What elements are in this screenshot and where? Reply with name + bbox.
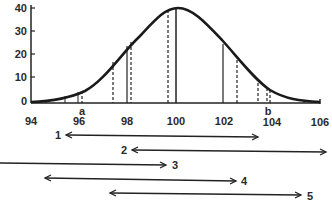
y-tick-label: 0 — [21, 95, 27, 107]
y-tick-label: 30 — [15, 25, 27, 37]
interval-label-1: 1 — [55, 129, 61, 141]
y-axis-ticks: 40 30 20 10 0 — [15, 2, 35, 107]
annotation-b: b — [265, 105, 272, 117]
y-tick-label: 20 — [15, 48, 27, 60]
x-tick-label: 102 — [215, 115, 233, 127]
x-tick-label: 100 — [167, 115, 185, 127]
interval-3 — [0, 162, 166, 168]
x-tick-label: 98 — [121, 115, 133, 127]
x-tick-label: 94 — [25, 115, 38, 127]
interval-label-2: 2 — [121, 144, 127, 156]
y-tick-label: 10 — [15, 71, 27, 83]
interval-label-4: 4 — [241, 175, 248, 187]
interval-arrows — [0, 132, 326, 198]
interval-5 — [110, 190, 301, 198]
interval-label-3: 3 — [172, 159, 178, 171]
interval-1 — [66, 132, 258, 140]
vertical-reference-lines — [46, 8, 304, 103]
interval-4 — [45, 175, 236, 184]
x-axis-ticks: 94 96 98 100 102 104 106 — [25, 115, 329, 128]
normal-distribution-chart: 40 30 20 10 0 94 96 98 100 102 104 106 a… — [0, 0, 332, 203]
y-tick-label: 40 — [15, 2, 27, 14]
x-tick-label: 104 — [263, 116, 282, 128]
interval-2 — [132, 147, 326, 155]
x-tick-label: 106 — [311, 116, 329, 128]
annotation-a: a — [79, 105, 86, 117]
interval-label-5: 5 — [307, 190, 313, 202]
